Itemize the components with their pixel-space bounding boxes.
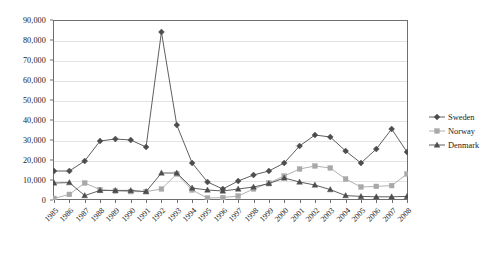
data-point: [53, 168, 57, 174]
chart-legend: SwedenNorwayDenmark: [428, 110, 502, 152]
square-marker-icon: [428, 125, 446, 137]
x-axis-tick-mark: [407, 200, 408, 203]
x-axis-tick-mark: [207, 200, 208, 203]
x-axis-tick-mark: [300, 200, 301, 203]
series-sweden: [53, 29, 408, 192]
y-axis-tick-label: 60,000: [23, 76, 46, 85]
data-point: [312, 132, 318, 138]
data-point: [343, 177, 348, 182]
data-point: [82, 181, 87, 186]
series-layer: [53, 20, 408, 200]
data-point: [67, 192, 72, 197]
x-axis-tick-mark: [192, 200, 193, 203]
x-axis-tick-mark: [376, 200, 377, 203]
data-point: [374, 184, 379, 189]
legend-item-sweden[interactable]: Sweden: [428, 110, 502, 124]
data-point: [328, 166, 333, 171]
x-axis-tick-mark: [54, 200, 55, 203]
data-point: [313, 164, 318, 169]
triangle-marker-icon: [428, 139, 446, 151]
data-point: [158, 29, 164, 35]
data-point: [297, 167, 302, 172]
x-axis-tick-mark: [69, 200, 70, 203]
x-axis-tick-mark: [361, 200, 362, 203]
y-axis-tick-label: 30,000: [23, 136, 46, 145]
x-axis-tick-mark: [100, 200, 101, 203]
x-axis-tick-mark: [330, 200, 331, 203]
y-axis-tick-label: 40,000: [23, 116, 46, 125]
legend-item-label: Sweden: [446, 113, 475, 122]
diamond-marker-icon: [428, 111, 446, 123]
legend-item-label: Norway: [446, 127, 475, 136]
y-axis-tick-label: 80,000: [23, 36, 46, 45]
y-axis-tick-label: 70,000: [23, 56, 46, 65]
x-axis-tick-mark: [254, 200, 255, 203]
x-axis-tick-mark: [346, 200, 347, 203]
data-point: [174, 122, 180, 128]
data-point: [66, 168, 72, 174]
x-axis-tick-mark: [115, 200, 116, 203]
x-axis-tick-mark: [238, 200, 239, 203]
x-axis-tick-mark: [131, 200, 132, 203]
series-norway: [53, 164, 408, 200]
x-axis-tick-mark: [269, 200, 270, 203]
x-axis-tick-mark: [85, 200, 86, 203]
legend-item-denmark[interactable]: Denmark: [428, 138, 502, 152]
data-point: [266, 168, 272, 174]
y-axis-tick-label: 50,000: [23, 96, 46, 105]
x-axis-tick-mark: [223, 200, 224, 203]
legend-item-norway[interactable]: Norway: [428, 124, 502, 138]
x-axis-tick-mark: [392, 200, 393, 203]
y-axis-tick-label: 10,000: [23, 176, 46, 185]
data-point: [404, 149, 408, 155]
x-axis-tick-mark: [146, 200, 147, 203]
y-axis-tick-label: 90,000: [23, 16, 46, 25]
data-point: [112, 136, 118, 142]
x-axis-tick-mark: [284, 200, 285, 203]
x-axis-tick-mark: [177, 200, 178, 203]
series-line: [54, 32, 407, 189]
data-point: [236, 194, 241, 199]
data-point: [359, 185, 364, 190]
data-point: [159, 187, 164, 192]
data-point: [405, 172, 408, 177]
x-axis-tick-mark: [161, 200, 162, 203]
legend-item-label: Denmark: [446, 141, 479, 150]
x-axis: 1985198619871988198919901991199219931994…: [53, 200, 408, 257]
chart-figure: 010,00020,00030,00040,00050,00060,00070,…: [0, 0, 502, 257]
data-point: [143, 144, 149, 150]
y-axis-tick-label: 0: [42, 196, 46, 205]
data-point: [128, 137, 134, 143]
x-axis-tick-mark: [315, 200, 316, 203]
data-point: [235, 178, 241, 184]
series-line: [54, 166, 407, 198]
data-point: [389, 183, 394, 188]
y-axis-tick-label: 20,000: [23, 156, 46, 165]
data-point: [251, 172, 257, 178]
